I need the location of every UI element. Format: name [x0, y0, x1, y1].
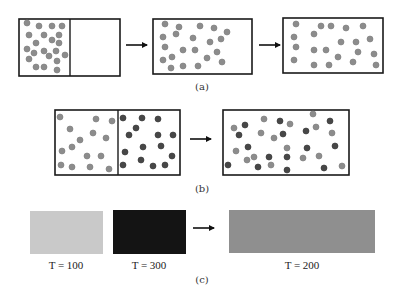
- gray-particle: [58, 162, 64, 168]
- gray-particle: [329, 130, 335, 136]
- gray-particle: [41, 64, 47, 70]
- rect-hot: [113, 210, 186, 254]
- gray-particle: [316, 153, 322, 159]
- dark-particle: [284, 154, 290, 160]
- rect-cold: [30, 211, 103, 254]
- gray-particle: [57, 114, 63, 120]
- dark-particle: [321, 165, 327, 171]
- box-a-final: [283, 18, 383, 73]
- gray-particle: [180, 63, 186, 69]
- gray-particle: [338, 39, 344, 45]
- dark-particle: [150, 163, 156, 169]
- gray-particle: [311, 31, 317, 37]
- gray-particle: [192, 47, 198, 53]
- gray-particle: [109, 118, 115, 124]
- gray-particle: [41, 48, 47, 54]
- gray-particle: [350, 59, 356, 65]
- dark-particle: [266, 154, 272, 160]
- gray-particle: [293, 21, 299, 27]
- dark-particle: [327, 118, 333, 124]
- temperature-label: T = 100: [49, 259, 84, 271]
- gray-particle: [284, 145, 290, 151]
- dark-particle: [169, 153, 175, 159]
- gray-particle: [160, 34, 166, 40]
- gray-particle: [54, 58, 60, 64]
- gray-particle: [98, 153, 104, 159]
- gray-particle: [26, 32, 32, 38]
- panel-b-gas-mixing: [55, 110, 349, 175]
- gray-particle: [162, 21, 168, 27]
- gray-particle: [224, 29, 230, 35]
- gray-particle: [197, 23, 203, 29]
- gray-particle: [360, 23, 366, 29]
- dark-particle: [122, 149, 128, 155]
- gray-particle: [218, 36, 224, 42]
- box-b-mixed: [223, 110, 349, 175]
- box-b-initial: [55, 110, 180, 175]
- gray-particle: [176, 24, 182, 30]
- dark-particle: [280, 131, 286, 137]
- dark-particle: [120, 115, 126, 121]
- gray-particle: [207, 39, 213, 45]
- dark-particle: [138, 157, 144, 163]
- gray-particle: [219, 59, 225, 65]
- dark-particle: [236, 132, 242, 138]
- dark-particle: [140, 144, 146, 150]
- panel-b-caption: (b): [195, 183, 209, 194]
- dark-particle: [284, 167, 290, 173]
- gray-particle: [33, 40, 39, 46]
- gray-particle: [268, 162, 274, 168]
- gray-particle: [106, 166, 112, 172]
- dark-particle: [133, 125, 139, 131]
- gray-particle: [287, 121, 293, 127]
- dark-particle: [303, 128, 309, 134]
- gray-particle: [56, 40, 62, 46]
- gray-particle: [310, 111, 316, 117]
- gray-particle: [173, 31, 179, 37]
- gray-particle: [367, 36, 373, 42]
- dark-particle: [225, 162, 231, 168]
- gray-particle: [160, 57, 166, 63]
- gray-particle: [244, 157, 250, 163]
- gray-particle: [293, 44, 299, 50]
- gray-particle: [169, 54, 175, 60]
- gray-particle: [24, 20, 30, 26]
- dark-particle: [255, 164, 261, 170]
- gray-particle: [24, 46, 30, 52]
- gray-particle: [233, 148, 239, 154]
- gray-particle: [371, 51, 377, 57]
- gray-particle: [93, 116, 99, 122]
- gray-particle: [90, 130, 96, 136]
- dark-particle: [332, 143, 338, 149]
- panel-c-temperature-equilibrium: T = 100T = 300T = 200: [30, 210, 375, 271]
- gray-particle: [59, 23, 65, 29]
- dark-particle: [155, 132, 161, 138]
- gray-particle: [311, 62, 317, 68]
- gray-particle: [231, 125, 237, 131]
- temperature-label: T = 200: [285, 259, 320, 271]
- panel-c-caption: (c): [195, 274, 209, 285]
- panel-a-gas-expansion: [19, 18, 383, 76]
- gray-particle: [291, 34, 297, 40]
- gray-particle: [190, 35, 196, 41]
- gray-particle: [77, 137, 83, 143]
- gray-particle: [271, 135, 277, 141]
- dark-particle: [170, 132, 176, 138]
- gray-particle: [291, 57, 297, 63]
- gray-particle: [258, 130, 264, 136]
- gray-particle: [313, 124, 319, 130]
- gray-particle: [36, 23, 42, 29]
- dark-particle: [277, 118, 283, 124]
- dark-particle: [139, 115, 145, 121]
- dark-particle: [304, 145, 310, 151]
- gray-particle: [343, 25, 349, 31]
- gray-particle: [53, 48, 59, 54]
- dark-particle: [158, 143, 164, 149]
- gray-particle: [62, 52, 68, 58]
- gray-particle: [103, 135, 109, 141]
- gray-particle: [251, 154, 257, 160]
- gray-particle: [328, 23, 334, 29]
- dark-particle: [126, 132, 132, 138]
- dark-particle: [155, 116, 161, 122]
- gray-particle: [195, 63, 201, 69]
